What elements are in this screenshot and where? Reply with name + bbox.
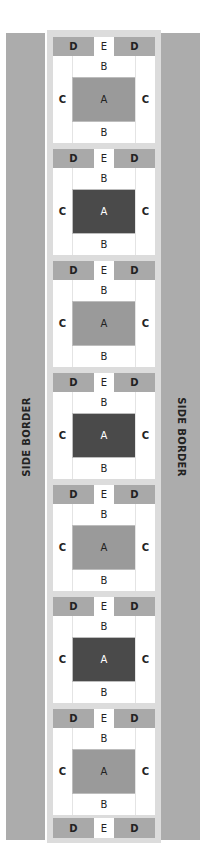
piece-b: B [73,346,135,367]
piece-d: D [114,37,155,56]
block-body: C B A B C [53,392,155,479]
sashing-row: D E D [53,373,155,392]
sashing-row: D E D [53,261,155,280]
piece-e: E [94,709,114,728]
piece-b: B [73,616,135,637]
side-border-left-label: SIDE BORDER [20,397,31,477]
piece-e: E [94,37,114,56]
piece-d: D [53,485,94,504]
piece-c: C [53,616,73,703]
piece-d: D [53,597,94,616]
block-body: C B A B C [53,616,155,703]
piece-a: A [72,749,136,794]
piece-a: A [72,413,136,458]
piece-a: A [72,525,136,570]
piece-b: B [73,458,135,479]
piece-d: D [114,261,155,280]
piece-d: D [114,597,155,616]
piece-b: B [73,280,135,301]
piece-a: A [72,301,136,346]
piece-c: C [53,168,73,255]
piece-c: C [135,56,155,143]
piece-c: C [135,392,155,479]
piece-c: C [53,56,73,143]
block-body: C B A B C [53,168,155,255]
piece-b: B [73,504,135,525]
sashing-row: D E D [53,597,155,616]
side-border-right-label: SIDE BORDER [175,397,186,477]
block-body: C B A B C [53,504,155,591]
piece-e: E [94,261,114,280]
piece-c: C [135,728,155,815]
piece-c: C [53,280,73,367]
piece-e: E [94,597,114,616]
side-border-left: SIDE BORDER [6,33,45,840]
piece-d: D [53,261,94,280]
piece-d: D [53,37,94,56]
piece-c: C [53,392,73,479]
sashing-row: D E D [53,37,155,56]
piece-e: E [94,149,114,168]
piece-c: C [135,168,155,255]
piece-b: B [73,234,135,255]
piece-d: D [114,818,155,838]
piece-d: D [53,149,94,168]
piece-c: C [53,728,73,815]
piece-e: E [94,373,114,392]
piece-b: B [73,392,135,413]
piece-a: A [72,637,136,682]
block-body: C B A B C [53,728,155,815]
piece-c: C [135,504,155,591]
piece-d: D [53,818,94,838]
piece-b: B [73,570,135,591]
side-border-right: SIDE BORDER [161,33,200,840]
piece-b: B [73,682,135,703]
piece-d: D [114,373,155,392]
block-body: C B A B C [53,56,155,143]
sashing-row: D E D [53,485,155,504]
sashing-row: D E D [53,149,155,168]
piece-a: A [72,189,136,234]
piece-e: E [94,485,114,504]
piece-d: D [114,485,155,504]
piece-b: B [73,794,135,815]
piece-d: D [114,149,155,168]
piece-b: B [73,168,135,189]
block-body: C B A B C [53,280,155,367]
piece-b: B [73,122,135,143]
piece-d: D [53,373,94,392]
sashing-row: D E D [53,709,155,728]
piece-c: C [53,504,73,591]
piece-c: C [135,616,155,703]
piece-c: C [135,280,155,367]
piece-d: D [114,709,155,728]
piece-d: D [53,709,94,728]
bottom-sashing-row: D E D [53,818,155,838]
quilt-strip: D E D C B A B C D E D C B A B C D E [47,30,161,843]
piece-b: B [73,56,135,77]
piece-b: B [73,728,135,749]
piece-e: E [94,818,114,838]
piece-a: A [72,77,136,122]
